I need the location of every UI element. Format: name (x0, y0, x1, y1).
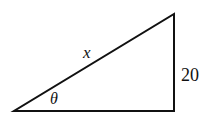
side-length-label: 20 (181, 65, 199, 85)
triangle-shape (14, 14, 174, 111)
right-triangle-diagram: x θ 20 (0, 0, 212, 127)
angle-label: θ (50, 90, 58, 107)
hypotenuse-label: x (82, 43, 91, 62)
